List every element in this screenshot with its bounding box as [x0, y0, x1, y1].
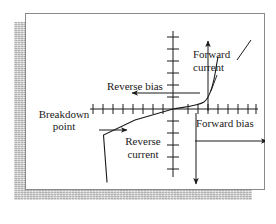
- breakdown-point-label-line1: Breakdown: [31, 108, 97, 120]
- reverse-bias-label: Reverse bias: [107, 80, 163, 92]
- reverse-current-label-line1: Reverse: [118, 135, 168, 148]
- iv-curve-plot: [25, 13, 265, 190]
- breakdown-point-label-line2: point: [31, 120, 97, 132]
- reverse-current-label-line2: current: [118, 148, 168, 161]
- forward-bias-label: Forward bias: [196, 117, 254, 129]
- diode-iv-figure: Breakdown point Reverse bias Forward bia…: [0, 0, 276, 224]
- forward-current-label-line1: Forward: [193, 48, 245, 61]
- reverse-current-label: Reverse current: [118, 135, 168, 161]
- forward-current-label: Forward current: [193, 48, 245, 74]
- breakdown-point-label: Breakdown point: [31, 108, 97, 132]
- forward-current-label-line2: current: [193, 61, 245, 74]
